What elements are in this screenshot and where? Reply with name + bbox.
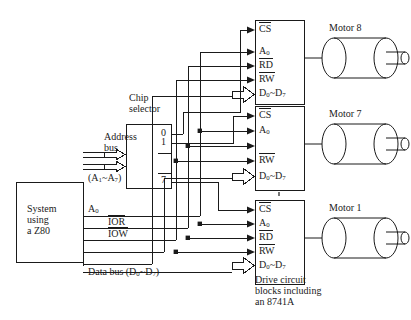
motor-7-right-cap	[374, 124, 398, 164]
address-bus-line2: bus	[104, 142, 137, 153]
block1-pin-rw-text: RW	[259, 245, 275, 256]
caption-line3: an 8741A	[255, 296, 321, 307]
system-block-line3: a Z80	[27, 225, 56, 236]
iow-text: IOW	[108, 228, 128, 239]
address-range-close: )	[118, 172, 121, 183]
address-range-sub1: 1	[99, 176, 102, 183]
drive-circuit-caption: Drive circuit blocks including an 8741A	[255, 274, 321, 308]
block1-pin-cs: CS	[259, 203, 271, 214]
address-range-mid: ~A	[102, 172, 115, 183]
block8-pin-d-sub1: 0	[266, 91, 269, 98]
block8-pin-cs-text: CS	[259, 23, 271, 34]
block8-pin-a0-sub: 0	[266, 49, 269, 56]
block8-pin-rd-text: RD	[259, 59, 273, 70]
block8-pin-d-sub2: 7	[282, 91, 285, 98]
chip-selector-output-7: 7	[161, 174, 166, 185]
motor-7-left-cap	[322, 124, 346, 164]
address-range-label: (A1~A7)	[88, 172, 121, 183]
motor-1-body-sides	[334, 218, 386, 258]
arrow-b8-rw	[247, 77, 255, 84]
system-block-line1: System	[27, 203, 56, 214]
address-range-sub2: 7	[115, 176, 118, 183]
block8-pin-d-mid: ~D	[270, 87, 283, 98]
block1-pin-cs-text: CS	[259, 203, 271, 214]
arrow-b7-rw	[247, 158, 255, 165]
block1-pin-data: D0~D7	[259, 259, 286, 270]
system-block-line2: using	[27, 214, 56, 225]
address-bus-arrow-lower	[104, 161, 125, 172]
motor-1-label: Motor 1	[329, 202, 362, 213]
arrow-b1-a0	[247, 221, 255, 228]
block7-pin-d-sub1: 0	[266, 174, 269, 181]
block8-pin-a0: A0	[259, 45, 270, 56]
address-bus-line1: Address	[104, 131, 137, 142]
caption-line2: blocks including	[255, 285, 321, 296]
caption-line1: Drive circuit	[255, 274, 321, 285]
data-bus-sub2: 7	[152, 270, 155, 277]
block8-pin-cs: CS	[259, 23, 271, 34]
block1-pin-d-sub1: 0	[266, 263, 269, 270]
block1-pin-rd: RD	[259, 231, 273, 242]
iow-label: IOW	[108, 228, 128, 239]
data-bus-label: Data bus (D0~D7)	[88, 266, 159, 277]
data-bus-close: )	[156, 266, 159, 277]
motor-7-label: Motor 7	[329, 108, 362, 119]
arrow-b7-a0	[247, 128, 255, 135]
ior-label: IOR	[108, 216, 125, 227]
system-block-label: System using a Z80	[27, 203, 56, 237]
address-range-open: (A	[88, 172, 99, 183]
motor-1-right-cap	[374, 218, 398, 258]
block8-pin-data: D0~D7	[259, 87, 286, 98]
chip-selector-title: Chip selector	[129, 92, 160, 114]
diagram-canvas	[0, 0, 411, 320]
dot-ior-block1	[186, 236, 190, 240]
chip-selector-output-1: 1	[161, 136, 166, 147]
block7-pin-cs-text: CS	[259, 109, 271, 120]
block7-pin-a0: A0	[259, 124, 270, 135]
wire-cs7-to-block1	[218, 182, 253, 210]
block-diagram: System using a Z80 Chip selector 0 1 7 A…	[0, 0, 411, 320]
chip-selector-title-line2: selector	[129, 103, 160, 114]
wire-a0-riser-block8	[200, 52, 253, 216]
motor-8-body-sides	[334, 38, 386, 78]
arrow-b8-cs	[247, 27, 255, 34]
motor-8-right-cap	[374, 38, 398, 78]
data-bus-sub1: 0	[136, 270, 139, 277]
data-bus-mid: ~D	[140, 266, 153, 277]
pin-arrowheads	[247, 27, 255, 256]
motor-8-left-cap	[322, 38, 346, 78]
block1-pin-a0: A0	[259, 217, 270, 228]
block8-pin-rw: RW	[259, 73, 275, 84]
wire-cs1-to-block7	[183, 116, 253, 143]
block7-pin-d-sub2: 7	[282, 174, 285, 181]
motor-8-label: Motor 8	[329, 22, 362, 33]
arrow-b8-a0	[247, 49, 255, 56]
data-arrow-block7	[232, 168, 254, 185]
dot-iow-block1	[174, 250, 178, 254]
wire-databus-riser-block7	[164, 178, 232, 252]
block1-pin-d-sub2: 7	[282, 263, 285, 270]
arrow-b1-cs	[247, 207, 255, 214]
block7-pin-cs: CS	[259, 109, 271, 120]
dot-ior-block7	[186, 144, 190, 148]
block1-pin-d-mid: ~D	[270, 259, 283, 270]
block1-pin-rd-text: RD	[259, 231, 273, 242]
a0-subscript: 0	[95, 207, 98, 214]
data-bus-text: Data bus (D	[88, 266, 136, 277]
motor-1-left-cap	[322, 218, 346, 258]
arrow-b7-cs	[247, 113, 255, 120]
arrow-b1-rw	[247, 249, 255, 256]
block7-pin-rw-text: RW	[259, 154, 275, 165]
arrow-b8-rd	[247, 63, 255, 70]
dot-a0-block7	[198, 129, 202, 133]
data-arrow-block8	[232, 86, 254, 103]
address-bus-label: Address bus	[104, 131, 137, 153]
dot-a0-block1	[198, 222, 202, 226]
dot-iow-block7	[174, 159, 178, 163]
block8-pin-rw-text: RW	[259, 73, 275, 84]
a0-label: A0	[88, 203, 99, 214]
motor-7-shaft-end	[401, 138, 409, 150]
block7-pin-a0-sub: 0	[266, 128, 269, 135]
block1-pin-rw: RW	[259, 245, 275, 256]
motor-7-body-sides	[334, 124, 386, 164]
